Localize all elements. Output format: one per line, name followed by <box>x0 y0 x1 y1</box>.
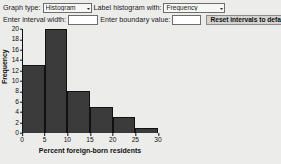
graph-type-value: Histogram <box>46 5 76 12</box>
x-axis-tick: 25 <box>132 133 139 144</box>
x-axis-tick: 5 <box>43 133 47 144</box>
histogram-bar <box>113 117 136 133</box>
histogram-bar <box>22 65 45 133</box>
y-axis-tick: 18 <box>12 36 22 43</box>
plot-area: 02468101214161820051015202530 <box>22 29 158 133</box>
graph-type-select[interactable]: Histogram ▾ <box>43 3 92 13</box>
x-axis-tick: 0 <box>20 133 24 144</box>
boundary-value-label: Enter boundary value: <box>100 16 170 23</box>
bar-series <box>22 29 158 133</box>
reset-intervals-button[interactable]: Reset intervals to default <box>206 15 281 25</box>
x-axis-tick: 30 <box>154 133 161 144</box>
y-axis-tick: 20 <box>12 26 22 33</box>
histogram-bar <box>45 29 68 133</box>
y-axis-tick: 2 <box>15 119 22 126</box>
boundary-value-input[interactable] <box>172 15 201 25</box>
y-axis-title: Frequency <box>1 50 8 85</box>
chevron-down-icon: ▾ <box>87 6 90 10</box>
y-axis-tick: 12 <box>12 67 22 74</box>
y-axis-tick: 6 <box>15 99 22 106</box>
controls-row-1: Graph type: Histogram ▾ Label histogram … <box>3 2 278 14</box>
label-histogram-select[interactable]: Frequency ▾ <box>163 3 225 13</box>
controls-panel: Graph type: Histogram ▾ Label histogram … <box>0 0 281 26</box>
y-axis-tick: 14 <box>12 57 22 64</box>
x-axis-title: Percent foreign-born residents <box>22 147 158 154</box>
y-axis-tick: 4 <box>15 109 22 116</box>
controls-row-2: Enter interval width: Enter boundary val… <box>3 14 278 26</box>
label-histogram-value: Frequency <box>166 5 197 12</box>
y-axis-tick: 8 <box>15 88 22 95</box>
histogram-bar <box>67 91 90 133</box>
y-axis-tick: 10 <box>12 78 22 85</box>
graph-type-label: Graph type: <box>3 4 41 11</box>
histogram-bar <box>90 107 113 133</box>
label-histogram-label: Label histogram with: <box>94 4 162 11</box>
interval-width-input[interactable] <box>68 15 98 25</box>
x-axis-tick: 15 <box>86 133 93 144</box>
interval-width-label: Enter interval width: <box>3 16 66 23</box>
chevron-down-icon: ▾ <box>220 6 223 10</box>
y-axis-tick: 16 <box>12 47 22 54</box>
x-axis-tick: 10 <box>64 133 71 144</box>
x-axis-tick: 20 <box>109 133 116 144</box>
histogram-chart: Frequency 02468101214161820051015202530 … <box>0 26 281 164</box>
